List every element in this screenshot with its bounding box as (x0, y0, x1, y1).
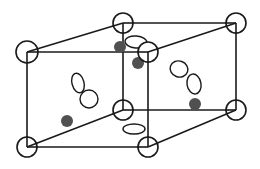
open-atom-ellipse (185, 73, 202, 95)
cell-edge (148, 110, 236, 147)
filled-atom (61, 115, 73, 127)
cell-edge (148, 23, 236, 52)
interior-open-atoms (70, 35, 203, 134)
corner-atoms (16, 13, 246, 157)
open-atom-ellipse (168, 58, 190, 79)
cell-edge (27, 110, 123, 147)
filled-atom (114, 41, 126, 53)
open-atom-ellipse (80, 90, 98, 108)
lattice-svg (0, 0, 260, 169)
lattice-diagram (0, 0, 260, 169)
open-atom-ellipse (123, 124, 145, 134)
cell-edge (27, 23, 123, 52)
filled-atom (189, 98, 201, 110)
